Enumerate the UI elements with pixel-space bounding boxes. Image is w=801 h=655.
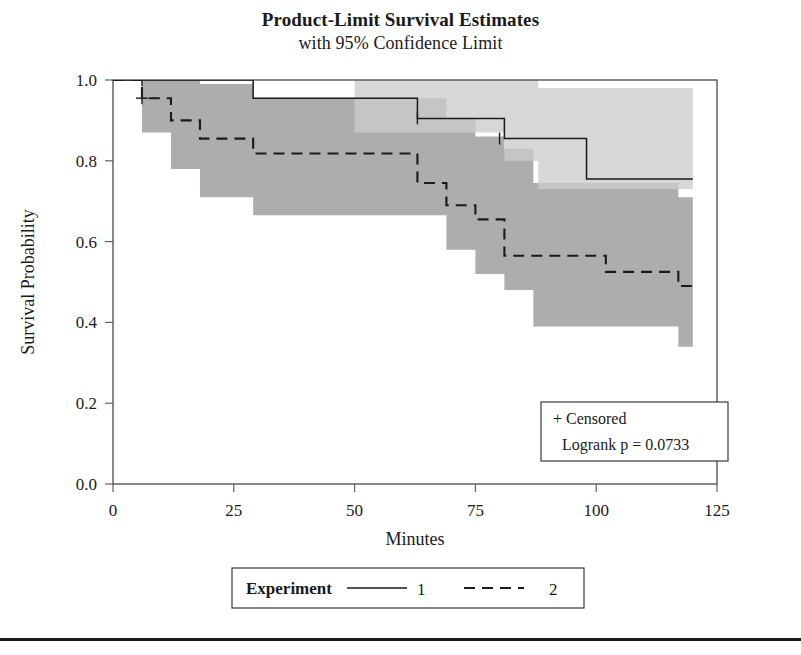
- legend-title: Experiment: [246, 579, 332, 598]
- legend-entry-label-2: 2: [549, 580, 558, 599]
- legend-box: Experiment 1 2: [232, 568, 584, 608]
- x-axis-ticks: 0255075100125: [109, 484, 730, 520]
- y-tick-label-0.6: 0.6: [76, 233, 97, 252]
- footer-rule: [0, 638, 801, 641]
- plot-canvas: 0255075100125 0.00.20.40.60.81.0 Minutes…: [0, 0, 801, 640]
- y-tick-label-0.8: 0.8: [76, 152, 97, 171]
- legend-entry-label-1: 1: [417, 580, 426, 599]
- x-tick-label-0: 0: [109, 501, 118, 520]
- y-tick-label-1.0: 1.0: [76, 71, 97, 90]
- y-tick-label-0.4: 0.4: [76, 313, 98, 332]
- x-tick-label-75: 75: [467, 501, 484, 520]
- x-tick-label-50: 50: [346, 501, 363, 520]
- x-tick-label-125: 125: [704, 501, 730, 520]
- logrank-p-text: Logrank p = 0.0733: [562, 436, 689, 454]
- survival-plot-figure: Product-Limit Survival Estimates with 95…: [0, 0, 801, 655]
- y-axis-title: Survival Probability: [18, 209, 38, 355]
- y-tick-label-0.2: 0.2: [76, 394, 97, 413]
- y-axis-ticks: 0.00.20.40.60.81.0: [76, 71, 113, 494]
- x-axis-title: Minutes: [385, 529, 444, 549]
- x-tick-label-25: 25: [225, 501, 242, 520]
- y-tick-label-0.0: 0.0: [76, 475, 97, 494]
- x-tick-label-100: 100: [583, 501, 609, 520]
- annotation-box: + Censored Logrank p = 0.0733: [541, 402, 728, 461]
- censored-legend-text: + Censored: [553, 410, 626, 427]
